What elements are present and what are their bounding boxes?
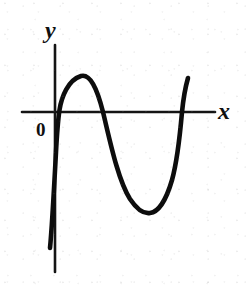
y-axis-label: y [45,18,56,42]
origin-label: 0 [36,120,46,139]
x-axis-label: x [218,99,230,123]
graph-figure: y x 0 [0,0,246,285]
polynomial-curve [50,76,188,248]
graph-canvas [0,0,246,285]
